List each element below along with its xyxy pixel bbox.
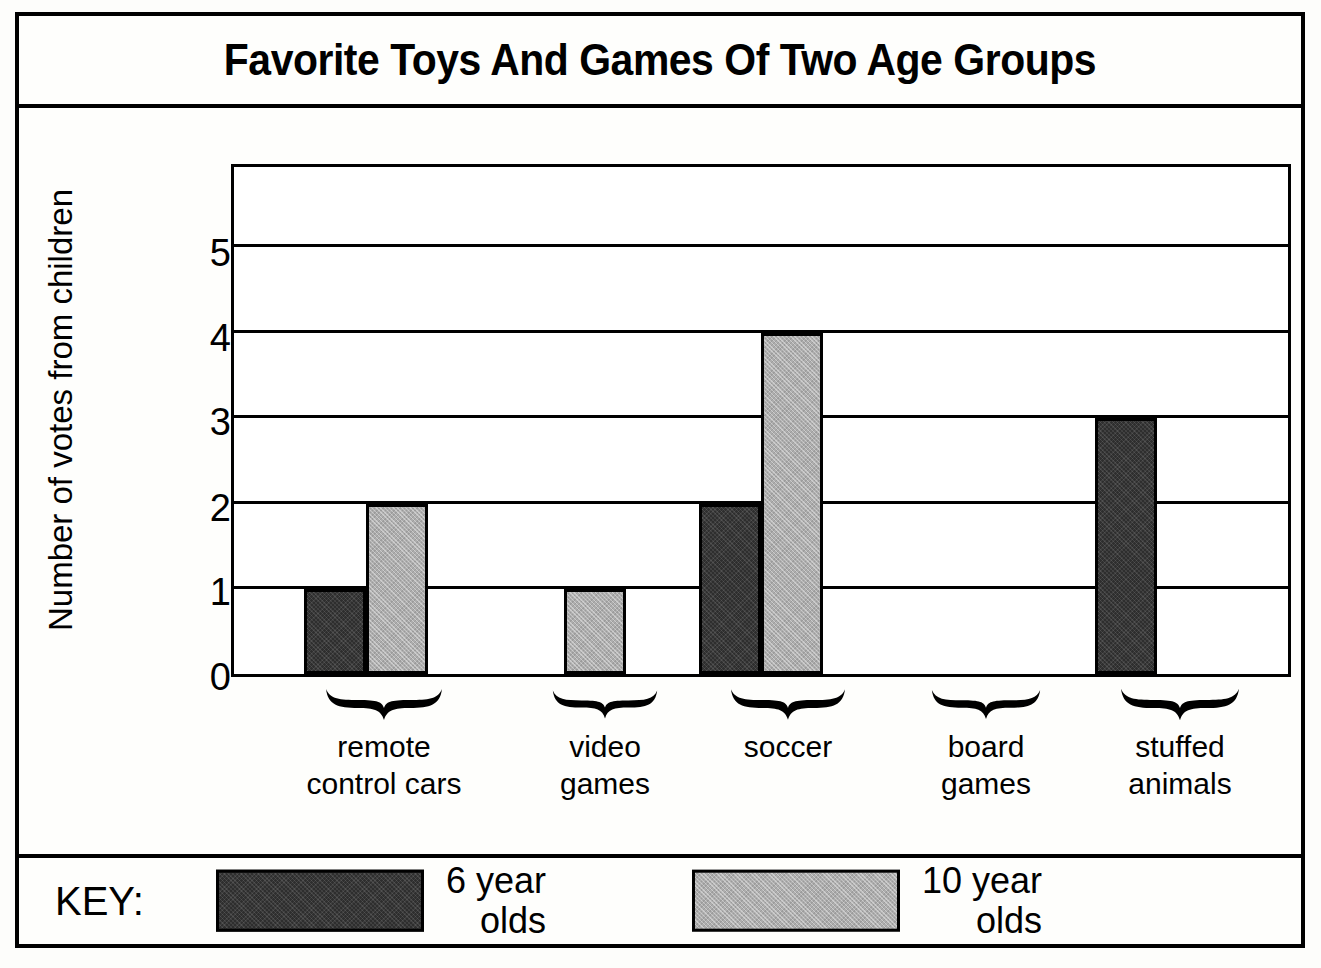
legend-label-line2: olds	[922, 901, 1042, 941]
bar-soccer-10-year-olds	[761, 333, 823, 674]
legend-title: KEY:	[55, 879, 144, 924]
category-label: stuffed animals	[1069, 729, 1291, 802]
legend-label-line2: olds	[446, 901, 546, 941]
category-label-line1: remote	[253, 729, 515, 766]
bar-remote-control-cars-6-year-olds	[304, 589, 366, 674]
legend-band: KEY: 6 year olds 10 year olds	[19, 858, 1301, 944]
legend-swatch-10-year-olds	[692, 870, 900, 932]
bar-video-games-10-year-olds	[564, 589, 626, 674]
category-axis: remote control cars video games	[231, 677, 1291, 852]
category-soccer: soccer	[678, 677, 898, 766]
chart-title: Favorite Toys And Games Of Two Age Group…	[224, 35, 1096, 85]
category-label-line2: games	[495, 766, 715, 803]
category-board-games: board games	[876, 677, 1096, 802]
brace-icon	[930, 683, 1042, 725]
plot-area	[231, 164, 1291, 677]
brace-icon	[551, 683, 659, 725]
y-tick-label-5: 5	[169, 234, 231, 272]
category-label-line2: games	[876, 766, 1096, 803]
legend-swatch-6-year-olds	[216, 870, 424, 932]
y-axis-tick-labels: 0 1 2 3 4 5	[169, 108, 231, 854]
category-label: remote control cars	[253, 729, 515, 802]
y-tick-label-1: 1	[169, 573, 231, 611]
category-label: soccer	[678, 729, 898, 766]
y-tick-label-0: 0	[169, 658, 231, 696]
bar-remote-control-cars-10-year-olds	[366, 504, 428, 674]
chart-poster: Favorite Toys And Games Of Two Age Group…	[0, 0, 1321, 968]
title-band: Favorite Toys And Games Of Two Age Group…	[19, 16, 1301, 108]
bar-soccer-6-year-olds	[699, 504, 761, 674]
category-label-line1: soccer	[678, 729, 898, 766]
category-label-line2: control cars	[253, 766, 515, 803]
category-label-line1: board	[876, 729, 1096, 766]
legend-label-line1: 6 year	[446, 861, 546, 901]
plot-inner	[234, 167, 1288, 674]
legend-entry-10-year-olds: 10 year olds	[692, 861, 1042, 942]
category-stuffed-animals: stuffed animals	[1069, 677, 1291, 802]
y-tick-label-4: 4	[169, 319, 231, 357]
y-tick-label-3: 3	[169, 403, 231, 441]
brace-icon	[324, 683, 444, 725]
brace-icon	[729, 683, 847, 725]
category-label: board games	[876, 729, 1096, 802]
brace-icon	[1119, 683, 1241, 725]
category-remote-control-cars: remote control cars	[253, 677, 515, 802]
outer-frame: Favorite Toys And Games Of Two Age Group…	[15, 12, 1305, 948]
legend-label-6-year-olds: 6 year olds	[446, 861, 546, 942]
legend-label-line1: 10 year	[922, 861, 1042, 901]
legend-label-10-year-olds: 10 year olds	[922, 861, 1042, 942]
y-axis-title: Number of votes from children	[42, 175, 80, 645]
plot-band: Number of votes from children 0 1 2 3 4 …	[19, 108, 1301, 858]
category-label-line2: animals	[1069, 766, 1291, 803]
category-label-line1: stuffed	[1069, 729, 1291, 766]
bar-stuffed-animals-6-year-olds	[1095, 418, 1157, 674]
y-tick-label-2: 2	[169, 489, 231, 527]
gridline-5	[234, 244, 1288, 247]
legend-entry-6-year-olds: 6 year olds	[216, 861, 546, 942]
